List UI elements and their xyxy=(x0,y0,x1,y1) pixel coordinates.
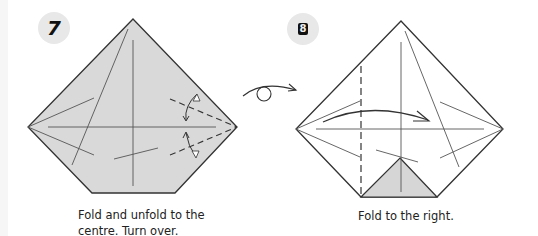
step-7-caption-line-2: centre. Turn over. xyxy=(78,223,248,236)
step-8-diagram xyxy=(296,21,503,197)
turn-over-icon xyxy=(243,84,296,101)
step-8-caption: Fold to the right. xyxy=(358,208,454,224)
step-7-caption: Fold and unfold to the centre. Turn over… xyxy=(78,207,248,236)
origami-diagram xyxy=(0,0,538,236)
step-7-caption-line-1: Fold and unfold to the xyxy=(78,207,248,223)
step-7-diagram xyxy=(28,19,237,193)
